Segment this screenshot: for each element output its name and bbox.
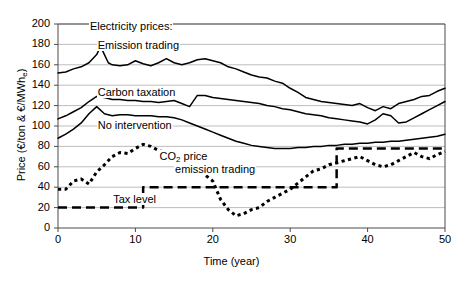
chart-figure: Price (€/ton & €/MWhe) Time (year) 02040… (0, 0, 463, 281)
x-tick-label: 30 (270, 233, 310, 245)
y-tick-label: 160 (16, 58, 50, 70)
y-tick-label: 60 (16, 160, 50, 172)
x-axis-label: Time (year) (0, 255, 463, 267)
chart-annotation: CO2 price (159, 150, 209, 164)
chart-annotation: Tax level (112, 193, 157, 205)
chart-annotation: emission trading (174, 163, 256, 175)
y-tick-label: 0 (16, 221, 50, 233)
y-tick-label: 200 (16, 17, 50, 29)
x-tick-label: 20 (193, 233, 233, 245)
chart-annotation: Electricity prices: (89, 20, 174, 32)
y-tick-label: 140 (16, 78, 50, 90)
chart-annotation: Carbon taxation (97, 86, 177, 98)
y-tick-label: 120 (16, 99, 50, 111)
chart-annotation: Emission trading (97, 39, 180, 51)
x-tick-label: 10 (115, 233, 155, 245)
y-tick-label: 20 (16, 201, 50, 213)
y-tick-label: 40 (16, 180, 50, 192)
x-tick-label: 40 (348, 233, 388, 245)
y-tick-label: 180 (16, 37, 50, 49)
x-tick-label: 0 (38, 233, 78, 245)
x-tick-label: 50 (425, 233, 463, 245)
y-tick-label: 80 (16, 139, 50, 151)
y-tick-label: 100 (16, 119, 50, 131)
chart-annotation: No intervention (97, 119, 173, 131)
series-line (58, 46, 445, 110)
